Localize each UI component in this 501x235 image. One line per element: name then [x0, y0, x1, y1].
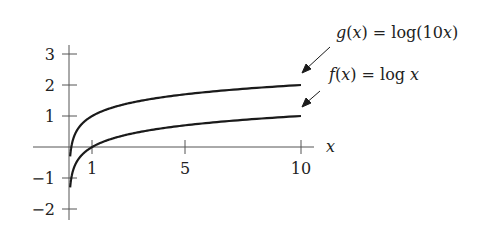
curve-g — [70, 85, 301, 156]
x-tick-label-1: 1 — [87, 159, 97, 178]
f-eq: = log — [356, 65, 410, 84]
f-label: f(x) = log x — [328, 65, 419, 84]
annotation-arrows — [302, 47, 330, 107]
log-chart: 3 2 1 −1 −2 1 5 10 x g(x) = log(10x) f(x… — [0, 0, 501, 235]
g-fn-name: g — [336, 23, 346, 42]
x-tick-label-10: 10 — [291, 159, 311, 178]
y-tick-label-2: 2 — [45, 76, 55, 95]
y-tick-label-neg1: −1 — [31, 169, 55, 188]
g-eq: = log(10 — [368, 23, 443, 42]
g-label: g(x) = log(10x) — [336, 23, 458, 42]
y-tick-label-1: 1 — [45, 107, 55, 126]
x-tick-label-5: 5 — [180, 159, 190, 178]
y-tick-label-neg2: −2 — [31, 200, 55, 219]
y-tick-label-3: 3 — [45, 45, 55, 64]
x-axis-label: x — [326, 137, 335, 156]
